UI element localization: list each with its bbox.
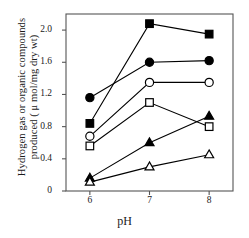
data-series-layer <box>85 20 213 185</box>
data-point-filled-circle <box>205 57 213 65</box>
data-point-open-circle <box>205 78 213 86</box>
data-point-open-triangle <box>205 150 214 158</box>
data-point-filled-square <box>86 120 94 128</box>
series-open-triangle <box>85 150 213 185</box>
data-point-filled-circle <box>145 58 153 66</box>
data-point-open-square <box>146 99 154 107</box>
data-point-filled-triangle <box>205 111 214 119</box>
chart-figure: Hydrogen gas or organic compounds produc… <box>0 0 249 238</box>
data-point-open-square <box>205 123 213 131</box>
data-point-open-circle <box>145 78 153 86</box>
series-filled-square <box>86 20 213 127</box>
data-point-filled-square <box>205 30 213 38</box>
data-point-open-circle <box>86 132 94 140</box>
data-point-filled-square <box>146 20 154 28</box>
series-filled-triangle <box>85 111 213 181</box>
plot-area <box>0 0 249 238</box>
data-point-filled-circle <box>86 94 94 102</box>
data-point-open-square <box>86 142 94 150</box>
series-open-circle <box>86 78 213 140</box>
